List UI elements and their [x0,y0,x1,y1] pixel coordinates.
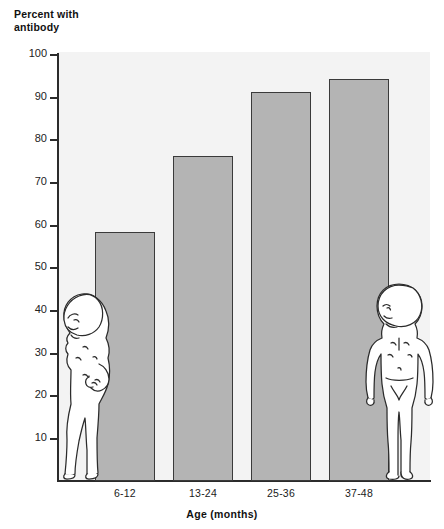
older-child-figure [358,276,440,482]
y-tick-label-60: 60 [7,218,47,230]
x-axis-title: Age (months) [0,508,444,520]
bar-13-24 [173,156,233,481]
y-axis-title: Percent with antibody [14,8,79,34]
y-tick-label-10: 10 [7,431,47,443]
y-tick-label-30: 30 [7,346,47,358]
y-tick-label-40: 40 [7,303,47,315]
bar-25-36 [251,92,311,481]
y-tick-label-70: 70 [7,175,47,187]
x-tick-label-6-12: 6-12 [85,487,165,499]
y-tick-label-90: 90 [7,90,47,102]
y-tick-label-50: 50 [7,260,47,272]
toddler-figure [52,280,132,480]
y-tick-label-100: 100 [7,47,47,59]
x-tick-label-13-24: 13-24 [163,487,243,499]
y-tick-label-80: 80 [7,132,47,144]
x-tick-label-37-48: 37-48 [319,487,399,499]
x-tick-label-25-36: 25-36 [241,487,321,499]
chart-canvas: Percent with antibody 100 90 80 70 60 50… [0,0,444,529]
y-tick-label-20: 20 [7,388,47,400]
